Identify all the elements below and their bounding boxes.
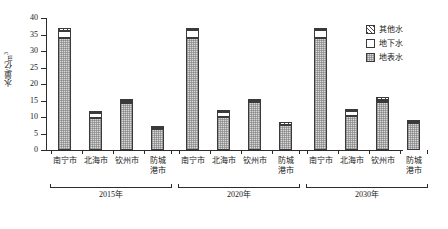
x-axis-tick (210, 150, 211, 154)
bar-segment-地下水 (376, 100, 389, 103)
bar-segment-地表水 (186, 38, 199, 150)
group-rule-cap (427, 184, 428, 188)
group-label: 2030年 (327, 190, 407, 200)
legend-item: 地下水 (366, 36, 403, 50)
bar-stack (314, 18, 327, 150)
bar-segment-地表水 (58, 38, 71, 150)
group-rule (178, 187, 300, 188)
y-axis-tick (41, 101, 46, 102)
bar-segment-其他水 (89, 111, 102, 113)
bar-segment-其他水 (120, 99, 133, 101)
y-axis-tick-label: 10 (16, 113, 38, 121)
group-label: 2015年 (71, 190, 151, 200)
bar-stack (151, 18, 164, 150)
bar-segment-地表水 (376, 102, 389, 150)
bar-segment-地表水 (345, 116, 358, 150)
bar-segment-地下水 (217, 112, 230, 117)
bar-segment-地表水 (120, 103, 133, 150)
x-axis-line (46, 150, 403, 151)
x-axis-tick (241, 150, 242, 154)
group-rule (50, 187, 172, 188)
x-axis-category-label: 防城 港市 (266, 156, 306, 175)
legend-swatch-empty (366, 39, 375, 48)
legend-item: 地表水 (366, 50, 403, 64)
y-axis-tick (41, 150, 46, 151)
bar-segment-其他水 (279, 122, 292, 124)
y-axis-tick-label: 15 (16, 97, 38, 105)
bar-segment-其他水 (186, 28, 199, 30)
legend-item: 其他水 (366, 22, 403, 36)
legend-label: 地下水 (379, 39, 403, 48)
bar-segment-地表水 (407, 123, 420, 150)
x-axis-tick (299, 150, 300, 154)
bar-segment-地下水 (186, 30, 199, 38)
y-axis-tick (41, 35, 46, 36)
x-axis-tick (307, 150, 308, 154)
y-axis-tick (41, 18, 46, 19)
bar-segment-其他水 (248, 99, 261, 101)
x-axis-tick (400, 150, 401, 154)
bar-segment-地表水 (151, 129, 164, 150)
bar-segment-其他水 (58, 28, 71, 30)
x-axis-tick (272, 150, 273, 154)
bar-segment-其他水 (314, 28, 327, 30)
y-axis-tick-label: 35 (16, 31, 38, 39)
y-axis-tick-label: 20 (16, 80, 38, 88)
group-rule-cap (171, 184, 172, 188)
group-label: 2020年 (199, 190, 279, 200)
y-axis-tick-label: 25 (16, 64, 38, 72)
group-rule-cap (306, 184, 307, 188)
chart-container: 水量/亿m3 0510152025303540 南宁市北海市钦州市防城 港市南宁… (0, 0, 448, 229)
legend-swatch-hatched (366, 25, 375, 34)
x-axis-tick (427, 150, 428, 154)
figure-caption (52, 220, 397, 229)
y-axis-tick (41, 134, 46, 135)
x-axis-tick (179, 150, 180, 154)
bar-stack (120, 18, 133, 150)
group-rule-cap (299, 184, 300, 188)
bar-segment-地表水 (279, 125, 292, 150)
legend-label: 其他水 (379, 25, 403, 34)
group-rule-cap (178, 184, 179, 188)
y-axis-tick (41, 84, 46, 85)
y-axis-tick-label: 0 (16, 146, 38, 154)
bar-segment-地表水 (248, 102, 261, 150)
y-axis-line (46, 18, 47, 151)
bar-stack (279, 18, 292, 150)
y-axis-tick-label: 40 (16, 14, 38, 22)
x-axis-tick (369, 150, 370, 154)
bar-stack (58, 18, 71, 150)
bar-segment-其他水 (345, 109, 358, 111)
x-axis-category-label: 防城 港市 (394, 156, 434, 175)
bar-segment-地表水 (217, 117, 230, 150)
y-axis-tick-label: 30 (16, 47, 38, 55)
bar-segment-地下水 (58, 31, 71, 38)
bar-segment-其他水 (407, 120, 420, 122)
x-axis-tick (51, 150, 52, 154)
bar-segment-地表水 (89, 118, 102, 150)
bar-segment-其他水 (151, 126, 164, 128)
legend-label: 地表水 (379, 53, 403, 62)
bar-segment-地下水 (345, 111, 358, 116)
y-axis-tick (41, 51, 46, 52)
bar-stack (248, 18, 261, 150)
x-axis-tick (113, 150, 114, 154)
y-axis-tick (41, 117, 46, 118)
x-axis-tick (338, 150, 339, 154)
y-axis-label: 水量/亿m3 (2, 52, 16, 87)
bar-segment-其他水 (376, 97, 389, 99)
legend: 其他水地下水地表水 (366, 22, 403, 64)
bar-stack (407, 18, 420, 150)
bar-stack (89, 18, 102, 150)
bar-stack (186, 18, 199, 150)
x-axis-tick (144, 150, 145, 154)
bar-segment-地下水 (314, 30, 327, 39)
bar-segment-其他水 (217, 110, 230, 112)
y-axis-tick-label: 5 (16, 130, 38, 138)
group-rule-cap (50, 184, 51, 188)
x-axis-category-label: 防城 港市 (138, 156, 178, 175)
y-axis-tick (41, 68, 46, 69)
bar-segment-地表水 (314, 38, 327, 150)
x-axis-tick (171, 150, 172, 154)
bar-segment-地下水 (120, 101, 133, 103)
